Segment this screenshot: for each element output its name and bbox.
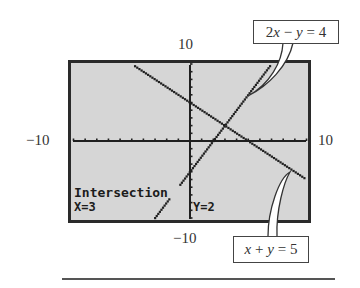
- plot-point: [147, 74, 149, 76]
- plot-point: [303, 177, 305, 179]
- eq2-rhs: = 5: [274, 241, 297, 258]
- plot-point: [175, 92, 177, 94]
- plot-point: [260, 78, 262, 80]
- plot-point: [138, 68, 140, 70]
- plot-point: [228, 119, 230, 121]
- plot-point: [211, 142, 213, 144]
- plot-point: [250, 90, 252, 92]
- plot-point: [230, 117, 232, 119]
- plot-point: [156, 79, 158, 81]
- plot-point: [236, 133, 238, 135]
- plot-point: [297, 173, 299, 175]
- plot-point: [242, 100, 244, 102]
- plot-point: [269, 154, 271, 156]
- x-readout: X=3: [74, 201, 96, 213]
- plot-point: [160, 82, 162, 84]
- eq2-var-x: x: [245, 241, 252, 258]
- plot-point: [193, 165, 195, 167]
- equation-label-line1: 2x − y = 4: [253, 20, 339, 44]
- plot-point: [190, 102, 192, 104]
- plot-point: [190, 169, 192, 171]
- plot-point: [234, 111, 236, 113]
- plot-point: [256, 145, 258, 147]
- plot-point: [267, 67, 269, 69]
- plot-point: [206, 112, 208, 114]
- plot-point: [282, 163, 284, 165]
- plot-point: [189, 171, 191, 173]
- plot-point: [184, 177, 186, 179]
- plot-point: [286, 166, 288, 168]
- eq1-operator: −: [280, 24, 296, 41]
- plot-point: [212, 117, 214, 119]
- plot-point: [167, 87, 169, 89]
- plot-point: [214, 138, 216, 140]
- plot-point: [154, 78, 156, 80]
- plot-point: [273, 157, 275, 159]
- plot-point: [262, 150, 264, 152]
- y-readout: Y=2: [193, 201, 215, 213]
- plot-point: [241, 103, 243, 105]
- plot-point: [195, 105, 197, 107]
- plot-point: [253, 86, 255, 88]
- plot-point: [222, 128, 224, 130]
- plot-point: [295, 171, 297, 173]
- plot-point: [169, 88, 171, 90]
- plot-point: [182, 180, 184, 182]
- plot-point: [249, 141, 251, 143]
- plot-point: [145, 72, 147, 74]
- plot-point: [177, 94, 179, 96]
- plot-point: [230, 128, 232, 130]
- plot-point: [186, 175, 188, 177]
- plot-point: [233, 113, 235, 115]
- plot-point: [201, 155, 203, 157]
- plot-point: [187, 173, 189, 175]
- plot-point: [219, 121, 221, 123]
- plot-point: [245, 138, 247, 140]
- eq1-var-x: x: [273, 24, 280, 41]
- plot-point: [214, 118, 216, 120]
- plot-point: [292, 170, 294, 172]
- plot-point: [247, 140, 249, 142]
- plot-point: [157, 213, 159, 215]
- plot-point: [163, 205, 165, 207]
- plot-point: [299, 174, 301, 176]
- plot-point: [253, 144, 255, 146]
- plot-point: [168, 198, 170, 200]
- plot-point: [198, 159, 200, 161]
- plot-point: [158, 81, 160, 83]
- plot-point: [258, 147, 260, 149]
- plot-point: [154, 217, 156, 219]
- plot-point: [223, 125, 225, 127]
- plot-point: [173, 91, 175, 93]
- plot-point: [143, 71, 145, 73]
- plot-point: [288, 167, 290, 169]
- equation-label-line2: x + y = 5: [233, 236, 309, 263]
- plot-point: [195, 163, 197, 165]
- plot-point: [140, 69, 142, 71]
- plot-point: [212, 140, 214, 142]
- plot-point: [236, 109, 238, 111]
- plot-point: [215, 136, 217, 138]
- plot-point: [162, 207, 164, 209]
- plot-point: [266, 153, 268, 155]
- plot-point: [164, 85, 166, 87]
- plot-point: [231, 115, 233, 117]
- plot-point: [188, 101, 190, 103]
- plot-point: [245, 96, 247, 98]
- plot-point: [184, 98, 186, 100]
- plot-point: [216, 120, 218, 122]
- plot-point: [167, 200, 169, 202]
- plot-point: [266, 69, 268, 71]
- plot-point: [204, 150, 206, 152]
- eq2-var-y: y: [267, 241, 274, 258]
- plot-point: [277, 160, 279, 162]
- plot-point: [179, 184, 181, 186]
- plot-point: [221, 123, 223, 125]
- plot-point: [165, 202, 167, 204]
- plot-point: [238, 134, 240, 136]
- plot-point: [275, 158, 277, 160]
- plot-point: [264, 71, 266, 73]
- eq2-operator: +: [251, 241, 267, 258]
- plot-point: [199, 108, 201, 110]
- plot-point: [232, 130, 234, 132]
